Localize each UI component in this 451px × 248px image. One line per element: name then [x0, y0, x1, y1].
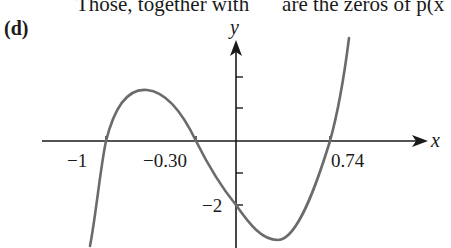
x-tick-label-neg030: −0.30	[143, 150, 187, 171]
y-tick-label-neg2: −2	[202, 195, 222, 216]
polynomial-graph: x y −1 −0.30 0.74 −2	[0, 0, 451, 248]
x-axis-label: x	[430, 129, 440, 151]
y-axis-label: y	[228, 16, 239, 39]
x-tick-label-neg1: −1	[67, 150, 87, 171]
x-tick-label-074: 0.74	[331, 150, 365, 171]
